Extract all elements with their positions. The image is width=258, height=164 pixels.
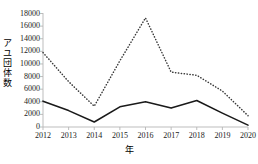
x-axis-title: 年 xyxy=(0,145,258,155)
x-axis-tick-labels: 201220132014201520162017201820192020 xyxy=(0,131,258,143)
x-tick-label: 2018 xyxy=(184,131,210,140)
x-tick-label: 2020 xyxy=(235,131,258,140)
x-tick-label: 2013 xyxy=(56,131,82,140)
x-tick-label: 2015 xyxy=(107,131,133,140)
x-tick-label: 2019 xyxy=(209,131,235,140)
chart-container: アユ団体数 0200040006000800010000120001400016… xyxy=(0,0,258,164)
x-tick-label: 2016 xyxy=(133,131,159,140)
x-tick-label: 2017 xyxy=(158,131,184,140)
x-tick-label: 2014 xyxy=(81,131,107,140)
x-tick-label: 2012 xyxy=(30,131,56,140)
series-line-solid-series xyxy=(43,101,248,126)
